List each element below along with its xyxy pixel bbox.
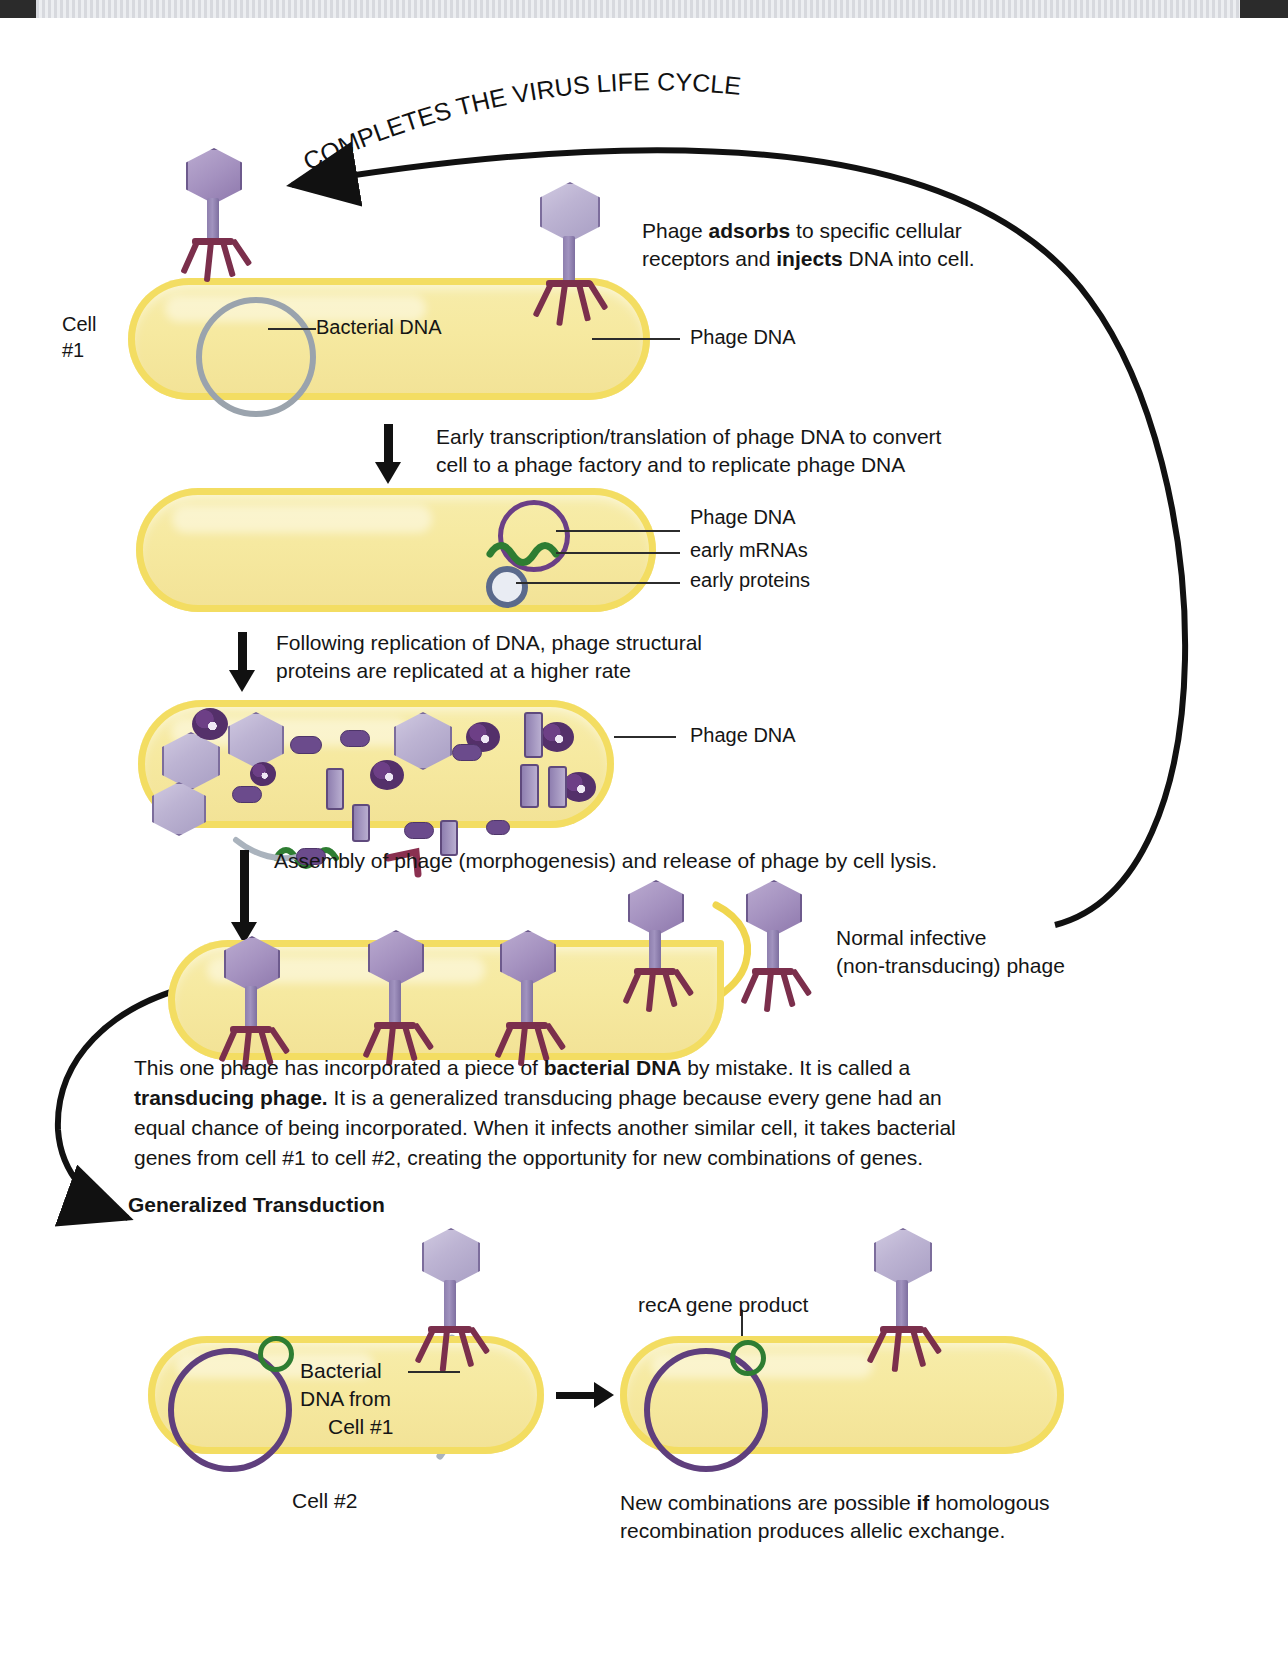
flow-arrow-2-head bbox=[229, 670, 255, 692]
dna-tangle bbox=[370, 760, 404, 790]
bacterial-dna-ring bbox=[196, 297, 316, 417]
early-proteins-label: early proteins bbox=[690, 568, 810, 594]
flow-arrow-3-shaft bbox=[240, 850, 249, 928]
normal-phage-label-line1: Normal infective bbox=[836, 925, 987, 952]
reca-label: recA gene product bbox=[638, 1292, 808, 1319]
arc-title-text: COMPLETES THE VIRUS LIFE CYCLE bbox=[299, 67, 743, 175]
bacterial-dna-from-label-line3: Cell #1 bbox=[328, 1414, 393, 1441]
transduction-paragraph-line1: This one phage has incorporated a piece … bbox=[134, 1055, 910, 1082]
tail-sheath-rod bbox=[548, 766, 567, 808]
early-proteins-leader bbox=[516, 582, 680, 584]
structural-step-line1: Following replication of DNA, phage stru… bbox=[276, 630, 702, 657]
protein-pill bbox=[452, 744, 482, 761]
transduction-arrow-shaft bbox=[556, 1392, 596, 1399]
tail-sheath-rod bbox=[326, 768, 344, 810]
early-mrnas-leader bbox=[556, 552, 680, 554]
tail-sheath-rod bbox=[520, 764, 539, 808]
section-heading: Generalized Transduction bbox=[128, 1192, 385, 1219]
cell2-label: Cell #2 bbox=[292, 1488, 357, 1515]
cell1-label-line2: #1 bbox=[62, 338, 84, 364]
protein-pill bbox=[404, 822, 434, 839]
dna-tangle bbox=[562, 772, 596, 802]
protein-pill bbox=[232, 786, 262, 803]
flow-arrow-1-head bbox=[375, 462, 401, 484]
transduction-paragraph-line3: equal chance of being incorporated. When… bbox=[134, 1115, 956, 1142]
page-top-band bbox=[0, 0, 1288, 18]
bacterial-dna-from-leader bbox=[408, 1371, 460, 1373]
phage-dna-label-2: Phage DNA bbox=[690, 505, 796, 531]
protein-pill bbox=[340, 730, 370, 747]
early-mrnas-label: early mRNAs bbox=[690, 538, 808, 564]
adsorb-step-line1: Phage adsorbs to specific cellular bbox=[642, 218, 962, 245]
bacterial-dna-leader bbox=[268, 328, 316, 330]
transduction-paragraph-line4: genes from cell #1 to cell #2, creating … bbox=[134, 1145, 923, 1172]
assembly-step-text: Assembly of phage (morphogenesis) and re… bbox=[274, 848, 937, 875]
phage-dna-label-1: Phage DNA bbox=[690, 325, 796, 351]
adsorb-step-line2: receptors and injects DNA into cell. bbox=[642, 246, 975, 273]
phage-dna-label-3: Phage DNA bbox=[690, 723, 796, 749]
cell1-label-line1: Cell bbox=[62, 312, 96, 338]
transduction-arrow-head bbox=[594, 1382, 614, 1408]
early-protein-glyph bbox=[486, 566, 528, 608]
footer-line1: New combinations are possible if homolog… bbox=[620, 1490, 1050, 1517]
tail-sheath-rod bbox=[524, 712, 543, 758]
footer-line2: recombination produces allelic exchange. bbox=[620, 1518, 1005, 1545]
phage-dna-leader-1 bbox=[592, 338, 680, 340]
tail-sheath-rod bbox=[352, 804, 370, 842]
dna-tangle bbox=[250, 762, 276, 786]
structural-step-line2: proteins are replicated at a higher rate bbox=[276, 658, 631, 685]
normal-phage-label-line2: (non-transducing) phage bbox=[836, 953, 1065, 980]
protein-pill bbox=[290, 736, 322, 754]
phage-dna-leader-2 bbox=[556, 530, 680, 532]
bacterial-dna-from-label-line1: Bacterial bbox=[300, 1358, 382, 1385]
phage-dna-leader-3 bbox=[614, 736, 676, 738]
early-step-line2: cell to a phage factory and to replicate… bbox=[436, 452, 905, 479]
dna-tangle bbox=[192, 708, 228, 740]
protein-pill bbox=[486, 820, 510, 835]
bacterial-dna-from-label-line2: DNA from bbox=[300, 1386, 391, 1413]
bacterial-dna-label: Bacterial DNA bbox=[316, 315, 442, 341]
reca-ring-right bbox=[730, 1340, 766, 1376]
transduction-paragraph-line2: transducing phage. It is a generalized t… bbox=[134, 1085, 942, 1112]
reca-ring-left bbox=[258, 1336, 294, 1372]
dna-tangle bbox=[540, 722, 574, 752]
early-step-line1: Early transcription/translation of phage… bbox=[436, 424, 941, 451]
